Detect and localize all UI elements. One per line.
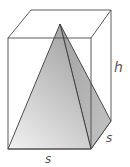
base-side-label: s xyxy=(45,152,51,166)
depth-side-label: s xyxy=(106,131,112,145)
prism-pyramid-diagram: h s s xyxy=(0,0,130,167)
height-label: h xyxy=(114,59,123,75)
pyramid xyxy=(8,24,111,149)
